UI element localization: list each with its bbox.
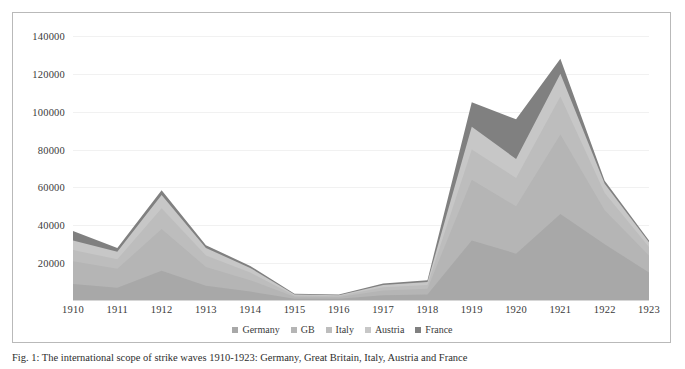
x-axis-tick-label: 1913 (195, 304, 217, 315)
legend-swatch-icon (365, 327, 371, 333)
legend-label: France (425, 324, 452, 335)
legend-item-germany[interactable]: Germany (232, 324, 279, 335)
y-axis: 14000012000010000080000600004000020000 (13, 36, 71, 301)
legend-item-austria[interactable]: Austria (365, 324, 404, 335)
legend-swatch-icon (232, 327, 238, 333)
chart-legend: GermanyGBItalyAustriaFrance (13, 324, 672, 335)
x-axis: 1910191119121913191419151916191719181919… (73, 304, 649, 320)
figure-caption: Fig. 1: The international scope of strik… (12, 352, 672, 363)
x-axis-tick-label: 1912 (151, 304, 173, 315)
x-axis-tick-label: 1916 (328, 304, 350, 315)
x-axis-tick-label: 1923 (638, 304, 660, 315)
y-axis-tick-label: 20000 (38, 258, 65, 269)
y-axis-tick-label: 60000 (38, 182, 65, 193)
x-axis-baseline (73, 300, 649, 301)
legend-label: Germany (242, 324, 279, 335)
y-axis-tick-label: 120000 (32, 68, 65, 79)
x-axis-tick-label: 1921 (549, 304, 571, 315)
legend-label: GB (301, 324, 315, 335)
x-axis-tick-label: 1920 (505, 304, 527, 315)
legend-item-gb[interactable]: GB (291, 324, 315, 335)
x-axis-tick-label: 1918 (417, 304, 439, 315)
legend-label: Italy (336, 324, 354, 335)
x-axis-tick-label: 1911 (107, 304, 128, 315)
y-axis-tick-label: 100000 (32, 106, 65, 117)
x-axis-tick-label: 1910 (62, 304, 84, 315)
legend-swatch-icon (415, 327, 421, 333)
y-axis-tick-label: 80000 (38, 144, 65, 155)
x-axis-tick-label: 1922 (594, 304, 616, 315)
legend-item-france[interactable]: France (415, 324, 452, 335)
legend-label: Austria (375, 324, 404, 335)
plot-area (73, 36, 649, 301)
legend-swatch-icon (291, 327, 297, 333)
x-axis-tick-label: 1917 (372, 304, 394, 315)
x-axis-tick-label: 1915 (284, 304, 306, 315)
x-axis-tick-label: 1914 (239, 304, 261, 315)
y-axis-tick-label: 40000 (38, 220, 65, 231)
stacked-area-series (73, 36, 649, 301)
y-axis-tick-label: 140000 (32, 31, 65, 42)
x-axis-tick-label: 1919 (461, 304, 483, 315)
legend-swatch-icon (326, 327, 332, 333)
figure-container: 14000012000010000080000600004000020000 1… (12, 12, 671, 343)
legend-item-italy[interactable]: Italy (326, 324, 354, 335)
